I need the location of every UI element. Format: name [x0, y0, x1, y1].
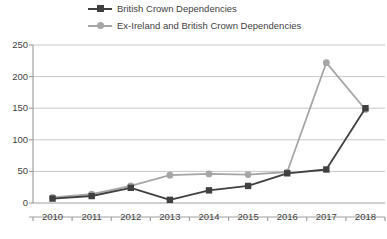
y-axis-label: 150: [12, 103, 28, 113]
data-point-marker: [245, 183, 251, 189]
y-axis-label: 100: [12, 135, 28, 145]
data-point-marker: [166, 172, 173, 179]
y-axis-tick-labels: 250200150100500: [0, 40, 32, 203]
x-axis-label: 2015: [238, 211, 259, 223]
data-point-marker: [167, 197, 173, 203]
data-point-marker: [206, 171, 213, 178]
x-axis-label: 2011: [81, 211, 101, 223]
x-axis-label: 2014: [198, 211, 219, 223]
plot-area: 250200150100500 201020112012201320142015…: [0, 40, 387, 239]
x-axis-label: 2017: [316, 211, 337, 223]
y-axis-label: 200: [12, 72, 28, 82]
legend-label: British Crown Dependencies: [117, 3, 237, 14]
chart-legend: British Crown Dependencies Ex-Ireland an…: [0, 0, 387, 34]
legend-item-ex-ireland-and-british-crown-dependencies[interactable]: Ex-Ireland and British Crown Dependencie…: [0, 17, 387, 34]
data-point-marker: [362, 105, 368, 111]
y-axis-label: 50: [17, 167, 28, 177]
legend-item-british-crown-dependencies[interactable]: British Crown Dependencies: [0, 0, 387, 17]
legend-label: Ex-Ireland and British Crown Dependencie…: [117, 20, 301, 31]
series-british-crown-dependencies: [49, 105, 368, 203]
x-axis-label: 2013: [159, 211, 180, 223]
x-axis-label: 2016: [277, 211, 298, 223]
x-axis-label: 2018: [355, 211, 376, 223]
line-chart: British Crown Dependencies Ex-Ireland an…: [0, 0, 387, 239]
series-line: [53, 108, 366, 200]
data-point-marker: [88, 193, 94, 199]
data-point-marker: [323, 166, 329, 172]
x-axis-tick-labels: 201020112012201320142015201620172018: [0, 206, 387, 226]
legend-marker-square-icon: [88, 3, 112, 15]
data-point-marker: [49, 195, 55, 201]
legend-marker-circle-icon: [88, 20, 112, 32]
data-point-marker: [323, 59, 330, 66]
series-ex-ireland-and-british-crown-dependencies: [49, 59, 369, 200]
y-axis-label: 250: [12, 40, 28, 50]
x-axis-label: 2012: [120, 211, 141, 223]
data-point-marker: [245, 171, 252, 178]
x-axis-label: 2010: [42, 211, 63, 223]
data-point-marker: [284, 170, 290, 176]
data-point-marker: [128, 185, 134, 191]
data-point-marker: [206, 187, 212, 193]
